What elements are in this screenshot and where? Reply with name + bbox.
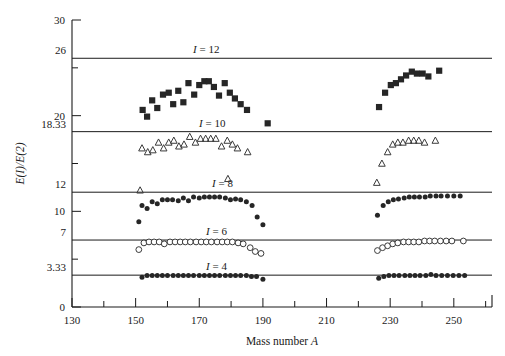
data-point (418, 273, 423, 278)
data-point (166, 90, 172, 96)
data-point (232, 95, 238, 101)
data-point (181, 195, 186, 200)
y-tick-label: 0 (60, 301, 66, 313)
data-point (244, 107, 250, 113)
data-point (144, 114, 150, 120)
data-point (181, 273, 186, 278)
y-tick-label: 10 (54, 205, 66, 217)
data-point (392, 273, 397, 278)
series-label-6: I = 6 (205, 225, 227, 237)
data-point (255, 215, 260, 220)
data-point (140, 107, 146, 113)
data-point (244, 199, 249, 204)
data-point (228, 197, 233, 202)
y-axis-title: E(I)/E(2) (14, 142, 27, 185)
series-label-12: I = 12 (192, 43, 219, 55)
data-point (238, 197, 243, 202)
data-point (145, 273, 150, 278)
data-point (223, 195, 228, 200)
data-point (202, 194, 207, 199)
data-point (150, 199, 155, 204)
data-point (149, 97, 155, 103)
data-point (154, 105, 160, 111)
data-point (160, 92, 166, 98)
data-point (412, 194, 417, 199)
data-point (202, 273, 207, 278)
data-point (250, 203, 255, 208)
data-point (175, 88, 181, 94)
data-point (258, 251, 264, 257)
data-point (229, 239, 235, 245)
data-point (217, 194, 222, 199)
data-point (456, 273, 461, 278)
data-point (176, 198, 181, 203)
x-tick-label: 150 (127, 314, 144, 326)
reference-value-label: 7 (61, 226, 67, 238)
data-point (171, 273, 176, 278)
data-point (386, 199, 391, 204)
data-point (438, 238, 444, 244)
data-point (161, 241, 167, 247)
x-tick-label: 230 (382, 314, 399, 326)
x-tick-label: 130 (64, 314, 81, 326)
data-point (432, 238, 438, 244)
data-point (187, 239, 193, 245)
data-point (445, 194, 450, 199)
data-point (176, 273, 181, 278)
data-point (428, 194, 433, 199)
data-point (238, 101, 244, 107)
x-tick-label: 170 (191, 314, 208, 326)
reference-value-label: 26 (55, 44, 67, 56)
data-point (407, 194, 412, 199)
data-point (185, 80, 191, 86)
data-point (208, 239, 214, 245)
x-axis-title: Mass number A (246, 335, 319, 347)
data-point (449, 238, 455, 244)
data-point (249, 274, 254, 279)
data-point (216, 92, 222, 98)
data-point (140, 275, 145, 280)
y-tick-label: 20 (54, 110, 66, 122)
data-point (413, 273, 418, 278)
data-point (436, 68, 442, 74)
data-point (434, 273, 439, 278)
data-point (445, 273, 450, 278)
data-point (238, 273, 243, 278)
series-label-4: I = 4 (205, 260, 227, 272)
data-point (386, 273, 391, 278)
data-point (396, 196, 401, 201)
data-point (458, 194, 463, 199)
data-point (140, 203, 145, 208)
data-point (212, 194, 217, 199)
data-point (260, 222, 265, 227)
data-point (191, 92, 197, 98)
data-point (407, 273, 412, 278)
data-point (160, 197, 165, 202)
data-point (265, 120, 271, 126)
data-point (136, 247, 142, 253)
data-point (186, 198, 191, 203)
data-point (197, 273, 202, 278)
x-tick-label: 190 (255, 314, 272, 326)
data-point (211, 84, 217, 90)
data-point (462, 273, 467, 278)
data-point (160, 273, 165, 278)
data-point (425, 73, 431, 79)
data-point (443, 238, 449, 244)
data-point (403, 72, 409, 78)
data-point (155, 273, 160, 278)
data-point (460, 238, 466, 244)
data-point (136, 219, 141, 224)
data-point (423, 273, 428, 278)
data-point (375, 213, 380, 218)
y-tick-label: 30 (54, 14, 66, 26)
data-point (439, 273, 444, 278)
data-point (206, 78, 212, 84)
data-point (212, 273, 217, 278)
data-point (227, 90, 233, 96)
data-point (233, 196, 238, 201)
x-tick-label: 250 (446, 314, 463, 326)
data-point (145, 206, 150, 211)
series-label-10: I = 10 (198, 117, 226, 129)
data-point (170, 197, 175, 202)
